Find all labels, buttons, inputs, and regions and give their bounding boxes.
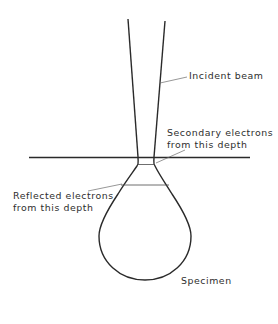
- secondary-electrons-label-line2: from this depth: [167, 139, 247, 150]
- secondary-electrons-leader: [156, 150, 185, 163]
- incident-beam: [128, 19, 165, 157]
- reflected-electrons-label-line2: from this depth: [13, 202, 93, 213]
- incident-beam-leader: [160, 77, 187, 83]
- specimen-label: Specimen: [181, 275, 232, 286]
- incident-beam-label: Incident beam: [189, 70, 264, 81]
- reflected-electrons-label-line1: Reflected electrons: [13, 190, 114, 201]
- electron-interaction-diagram: Incident beam Secondary electrons from t…: [0, 0, 278, 324]
- beam-left-edge: [128, 19, 138, 157]
- interaction-volume: [99, 157, 191, 280]
- secondary-electrons-label-line1: Secondary electrons: [167, 127, 273, 138]
- beam-right-edge: [154, 21, 165, 157]
